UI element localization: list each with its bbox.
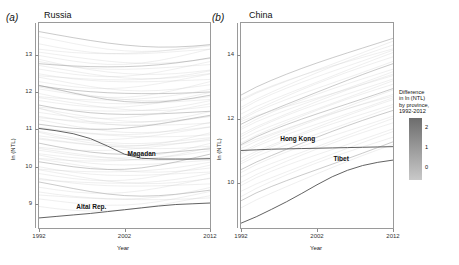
x-tick-mark <box>210 229 211 232</box>
background-trajectory <box>241 41 393 101</box>
background-trajectory <box>39 165 210 181</box>
panel-b-title: China <box>249 10 273 20</box>
background-trajectory <box>39 37 210 52</box>
series-label-altai: Altai Rep. <box>76 203 106 210</box>
background-trajectory <box>241 79 393 137</box>
x-tick-mark <box>39 229 40 232</box>
x-tick-label: 1992 <box>22 233 56 239</box>
background-trajectory <box>39 58 210 67</box>
panel-a-label: (a) <box>6 12 18 23</box>
series-label-tibet: Tibet <box>333 155 348 162</box>
background-trajectory <box>39 82 210 98</box>
plot-area-russia <box>38 22 211 229</box>
background-trajectory <box>39 196 210 211</box>
y-tick-mark <box>35 55 38 56</box>
background-trajectory <box>39 65 210 78</box>
x-tick-mark <box>125 229 126 232</box>
background-trajectory <box>39 139 210 151</box>
panel-b-xlabel: Year <box>299 245 333 251</box>
background-trajectory <box>241 49 393 99</box>
y-tick-mark <box>237 183 240 184</box>
x-tick-mark <box>241 229 242 232</box>
legend-tick-1: 1 <box>425 144 428 150</box>
legend-tick-0: 0 <box>425 164 428 170</box>
background-trajectory <box>39 143 210 154</box>
background-trajectory <box>241 72 393 130</box>
background-trajectory <box>39 115 210 129</box>
series-label-magadan: Magadan <box>128 150 156 157</box>
background-trajectory <box>39 32 210 48</box>
background-trajectory <box>39 71 210 80</box>
y-tick-mark <box>237 119 240 120</box>
y-axis-line <box>237 23 238 228</box>
legend-colorbar <box>409 118 422 180</box>
background-trajectory <box>39 77 210 91</box>
china-line-chart <box>241 23 393 228</box>
legend-tick-2: 2 <box>425 124 428 130</box>
panel-b-label: (b) <box>212 12 224 23</box>
background-trajectory <box>39 162 210 172</box>
series-label-hong-kong: Hong Kong <box>280 135 315 142</box>
background-trajectory <box>241 98 393 154</box>
x-tick-label: 2012 <box>376 233 410 239</box>
background-trajectory <box>241 105 393 162</box>
y-tick-label: 12 <box>212 115 234 121</box>
x-tick-mark <box>393 229 394 232</box>
y-tick-label: 12 <box>10 88 32 94</box>
y-tick-mark <box>35 167 38 168</box>
y-tick-label: 10 <box>212 179 234 185</box>
x-tick-label: 2002 <box>108 233 142 239</box>
background-trajectory <box>39 178 210 186</box>
y-tick-mark <box>35 92 38 93</box>
y-tick-label: 14 <box>212 51 234 57</box>
background-trajectory <box>241 89 393 145</box>
y-tick-mark <box>237 55 240 56</box>
panel-a-xlabel: Year <box>106 245 140 251</box>
legend-title: Difference in ln (NTL) by province, 1992… <box>399 89 457 115</box>
y-tick-label: 11 <box>10 125 32 131</box>
background-trajectory <box>39 182 210 196</box>
x-tick-label: 1992 <box>224 233 258 239</box>
background-trajectory <box>39 127 210 140</box>
x-tick-mark <box>317 229 318 232</box>
background-trajectory <box>39 93 210 108</box>
y-tick-mark <box>35 129 38 130</box>
background-trajectory <box>241 137 393 196</box>
highlighted-trajectory-hong-kong <box>241 147 393 151</box>
panel-a-title: Russia <box>44 10 72 20</box>
y-tick-label: 10 <box>10 163 32 169</box>
plot-area-china <box>240 22 394 229</box>
background-trajectory <box>39 170 210 184</box>
background-trajectory <box>241 107 393 164</box>
background-trajectory <box>241 76 393 122</box>
y-tick-label: 9 <box>10 200 32 206</box>
panel-a-ylabel: ln (NTL) <box>10 138 16 160</box>
x-tick-label: 2002 <box>300 233 334 239</box>
russia-line-chart <box>39 23 210 228</box>
background-trajectory <box>39 86 210 94</box>
figure-canvas: (a) Russia ln (NTL) Year Magadan Altai R… <box>0 0 459 265</box>
x-tick-label: 2012 <box>193 233 227 239</box>
background-trajectory <box>39 133 210 147</box>
y-tick-mark <box>35 204 38 205</box>
background-trajectory <box>241 144 393 207</box>
background-trajectory <box>39 49 210 64</box>
y-tick-label: 13 <box>10 51 32 57</box>
panel-b-ylabel: ln (NTL) <box>216 138 222 160</box>
background-trajectory <box>241 61 393 119</box>
